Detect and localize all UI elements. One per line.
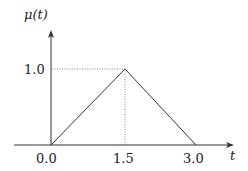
membership-line	[51, 69, 196, 145]
y-axis-label: μ(t)	[24, 8, 48, 21]
x-axis-label: t	[230, 149, 235, 162]
x-tick-1: 1.5	[113, 152, 134, 165]
x-tick-2: 3.0	[183, 152, 204, 165]
y-axis-label-text: μ(t)	[24, 7, 48, 22]
x-tick-0: 0.0	[36, 152, 57, 165]
membership-function-plot	[0, 0, 248, 171]
y-tick-1: 1.0	[24, 63, 45, 76]
